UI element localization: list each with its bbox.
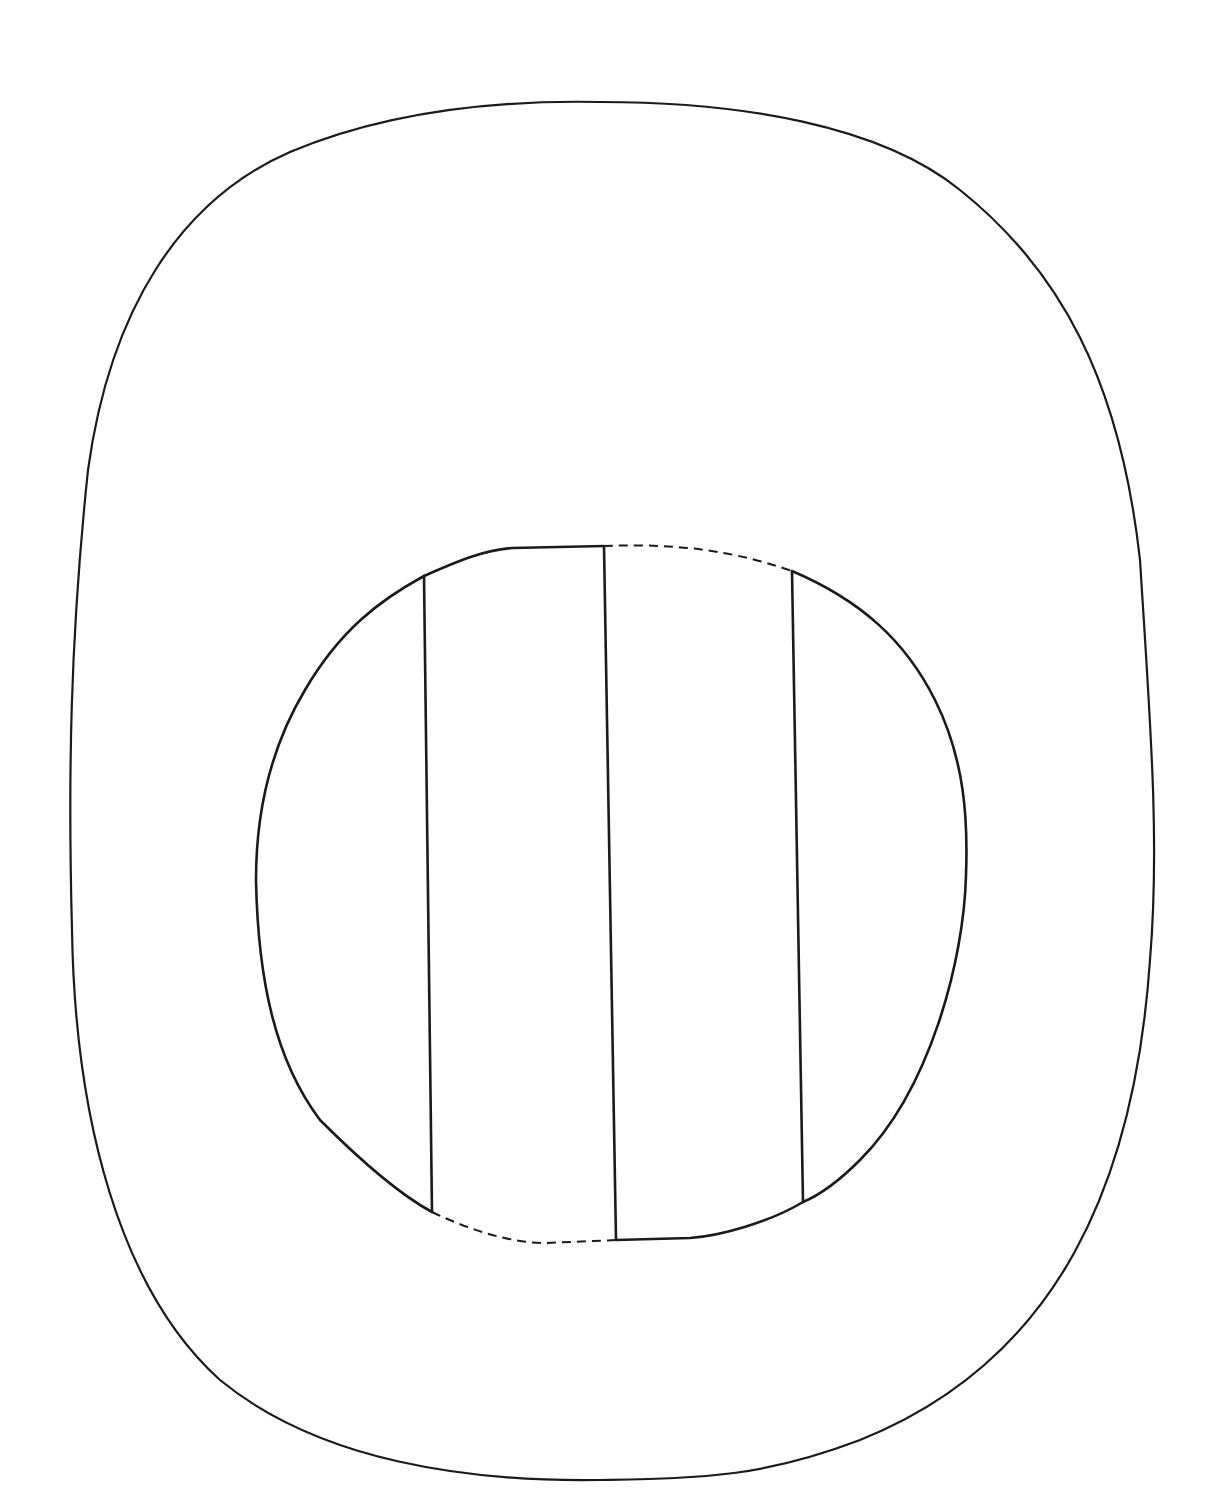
- inner-solid-segment: [792, 571, 966, 1202]
- divider-center: [604, 546, 616, 1240]
- divider-left: [424, 576, 432, 1212]
- vertical-dividers: [424, 546, 803, 1240]
- inner-solid-segment: [424, 546, 604, 576]
- inner-dashed-segment: [432, 1212, 616, 1243]
- inner-solid-segment: [256, 576, 432, 1212]
- inner-circle-dashed-outline: [432, 545, 792, 1243]
- divider-right: [792, 571, 803, 1202]
- inner-dashed-segment: [604, 545, 792, 571]
- diagram-svg: [0, 0, 1212, 1504]
- inner-solid-segment: [616, 1202, 803, 1240]
- diagram-canvas: [0, 0, 1212, 1504]
- outer-oval-outline: [70, 102, 1154, 1480]
- outer-oval-path: [70, 102, 1154, 1480]
